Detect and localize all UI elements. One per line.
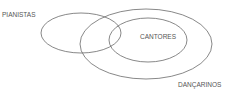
set-dancarinos-ellipse (80, 9, 212, 79)
label-pianistas: PIANISTAS (2, 11, 36, 18)
venn-diagram: PIANISTAS CANTORES DANÇARINOS (0, 0, 232, 91)
label-dancarinos: DANÇARINOS (178, 81, 222, 89)
venn-svg: PIANISTAS CANTORES DANÇARINOS (0, 0, 232, 91)
set-pianistas-ellipse (41, 13, 121, 53)
set-cantores-ellipse (109, 18, 187, 62)
label-cantores: CANTORES (140, 33, 177, 40)
